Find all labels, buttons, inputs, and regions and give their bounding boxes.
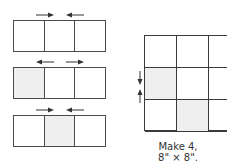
block-cell-shaded bbox=[145, 68, 177, 100]
press-up-arrow-icon bbox=[137, 89, 143, 103]
block-cell bbox=[209, 100, 227, 132]
strip-cell-shaded bbox=[45, 116, 76, 146]
strip-cell-shaded bbox=[14, 68, 45, 98]
block-cell bbox=[209, 68, 227, 100]
strip-cell bbox=[75, 68, 105, 98]
block-cell bbox=[209, 36, 227, 68]
block-cell bbox=[145, 100, 177, 132]
strip-cell bbox=[45, 21, 76, 51]
press-right-arrow-icon bbox=[36, 107, 54, 113]
nine-patch-block bbox=[144, 35, 227, 131]
strip-1 bbox=[13, 20, 106, 52]
caption-quantity: Make 4, bbox=[150, 141, 206, 152]
strip-cell bbox=[45, 68, 76, 98]
block-cell bbox=[177, 68, 209, 100]
press-left-arrow-icon bbox=[66, 107, 84, 113]
press-down-arrow-icon bbox=[137, 71, 143, 85]
strip-2 bbox=[13, 67, 106, 99]
press-right-arrow-icon bbox=[36, 12, 54, 18]
press-right-arrow-icon bbox=[66, 59, 84, 65]
strip-3 bbox=[13, 115, 106, 147]
caption-size: 8" × 8". bbox=[150, 152, 206, 163]
strip-cell bbox=[14, 21, 45, 51]
strip-cell bbox=[14, 116, 45, 146]
strip-cell bbox=[75, 21, 105, 51]
block-cell bbox=[145, 36, 177, 68]
block-cell bbox=[177, 36, 209, 68]
block-caption: Make 4, 8" × 8". bbox=[150, 141, 206, 163]
press-left-arrow-icon bbox=[66, 12, 84, 18]
strip-cell bbox=[75, 116, 105, 146]
block-cell-shaded bbox=[177, 100, 209, 132]
press-left-arrow-icon bbox=[36, 59, 54, 65]
